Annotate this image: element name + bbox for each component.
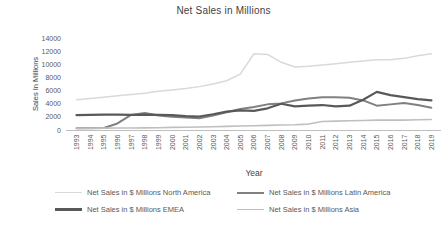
- svg-text:12000: 12000: [42, 48, 62, 55]
- svg-text:10000: 10000: [42, 61, 62, 68]
- svg-text:1998: 1998: [141, 134, 148, 150]
- svg-text:2000: 2000: [45, 113, 61, 120]
- legend-item-north-america: Net Sales in $ Millions North America: [55, 188, 237, 197]
- svg-text:2009: 2009: [291, 134, 298, 150]
- svg-text:2016: 2016: [387, 134, 394, 150]
- svg-text:1995: 1995: [100, 134, 107, 150]
- svg-text:8000: 8000: [45, 74, 61, 81]
- legend-label-latin-america: Net Sales in $ Millions Latin America: [269, 188, 390, 197]
- svg-text:2004: 2004: [223, 134, 230, 150]
- svg-text:2003: 2003: [210, 134, 217, 150]
- legend-label-north-america: Net Sales in $ Millions North America: [87, 188, 210, 197]
- svg-text:2005: 2005: [237, 134, 244, 150]
- legend-label-asia: Net Sales in $ Millions Asia: [269, 205, 359, 214]
- chart-legend: Net Sales in $ Millions North America Ne…: [0, 188, 447, 214]
- svg-text:2000: 2000: [169, 134, 176, 150]
- legend-line-swatch-emea: [55, 208, 82, 210]
- svg-text:2017: 2017: [401, 134, 408, 150]
- chart-title: Net Sales in Millions: [0, 5, 447, 16]
- chart-canvas: Net Sales in Millions 020004000600080001…: [0, 0, 447, 238]
- svg-text:2013: 2013: [346, 134, 353, 150]
- svg-text:Year: Year: [245, 168, 262, 178]
- svg-text:4000: 4000: [45, 100, 61, 107]
- svg-text:1994: 1994: [87, 134, 94, 150]
- svg-text:Sales In Millions: Sales In Millions: [31, 57, 40, 111]
- legend-item-latin-america: Net Sales in $ Millions Latin America: [237, 188, 419, 197]
- svg-text:2012: 2012: [332, 134, 339, 150]
- legend-label-emea: Net Sales in $ Millions EMEA: [87, 205, 184, 214]
- svg-text:2010: 2010: [305, 134, 312, 150]
- legend-line-swatch-asia: [237, 209, 264, 211]
- svg-text:2011: 2011: [319, 134, 326, 149]
- svg-text:6000: 6000: [45, 87, 61, 94]
- svg-text:2018: 2018: [414, 134, 421, 150]
- svg-text:1999: 1999: [155, 134, 162, 150]
- svg-text:2006: 2006: [250, 134, 257, 150]
- svg-text:2002: 2002: [196, 134, 203, 150]
- svg-text:2014: 2014: [360, 134, 367, 150]
- svg-text:2015: 2015: [373, 134, 380, 150]
- svg-text:1996: 1996: [114, 134, 121, 150]
- legend-item-asia: Net Sales in $ Millions Asia: [237, 205, 419, 214]
- svg-text:2019: 2019: [428, 134, 435, 150]
- svg-text:14000: 14000: [42, 35, 62, 42]
- svg-text:1997: 1997: [128, 134, 135, 150]
- svg-text:1993: 1993: [73, 134, 80, 150]
- legend-item-emea: Net Sales in $ Millions EMEA: [55, 205, 237, 214]
- legend-line-swatch-latin-america: [237, 192, 264, 194]
- svg-text:2007: 2007: [264, 134, 271, 150]
- legend-line-swatch-north-america: [55, 192, 82, 194]
- svg-text:0: 0: [57, 127, 61, 134]
- svg-text:2008: 2008: [278, 134, 285, 150]
- svg-text:2001: 2001: [182, 134, 189, 150]
- line-plot: 02000400060008000100001200014000Sales In…: [0, 18, 447, 185]
